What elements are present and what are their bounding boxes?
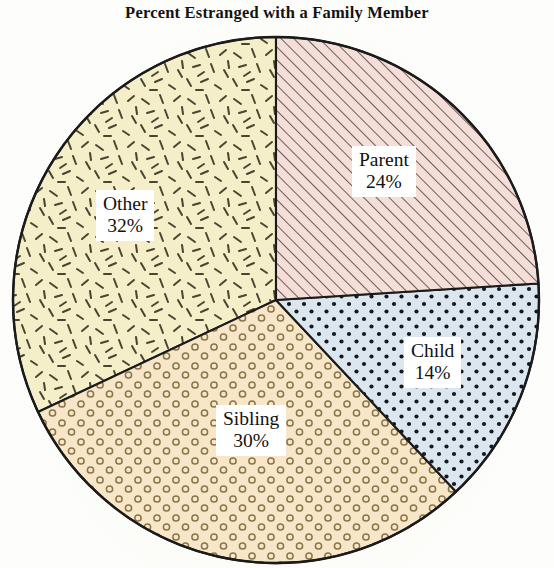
- pie-svg: [0, 0, 554, 568]
- pie-label-child-value: 14%: [411, 362, 454, 384]
- chart-figure: Percent Estranged with a Family Member: [0, 0, 554, 568]
- pie-label-sibling-name: Sibling: [223, 408, 279, 430]
- pie-label-other-name: Other: [103, 193, 147, 215]
- pie-label-parent-value: 24%: [359, 171, 409, 193]
- pie-label-parent: Parent 24%: [352, 146, 416, 197]
- pie-label-sibling-value: 30%: [223, 430, 279, 452]
- pie-label-other-value: 32%: [103, 215, 147, 237]
- pie-chart: [0, 0, 554, 568]
- pie-label-other: Other 32%: [96, 190, 154, 241]
- pie-label-parent-name: Parent: [359, 149, 409, 171]
- pie-label-sibling: Sibling 30%: [216, 405, 286, 456]
- pie-label-child-name: Child: [411, 340, 454, 362]
- pie-label-child: Child 14%: [404, 337, 461, 388]
